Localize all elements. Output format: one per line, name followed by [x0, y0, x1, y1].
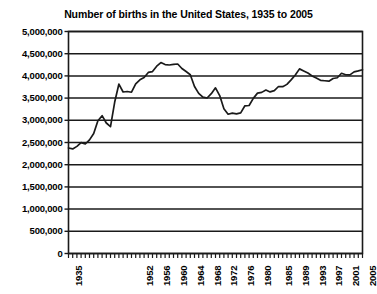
x-axis-tick-label: 1968: [212, 265, 223, 285]
y-axis-tick-label: 3,500,000: [22, 92, 62, 103]
chart-figure: Number of births in the United States, 1…: [0, 0, 377, 294]
x-axis-tick-label: 2005: [367, 265, 377, 285]
x-axis-tick-label: 2001: [350, 265, 361, 285]
x-axis-tick-label: 1935: [73, 265, 84, 285]
x-axis-tick-label: 1985: [283, 265, 294, 285]
y-axis-tick-label: 2,500,000: [22, 137, 62, 148]
y-axis-tick-label: 4,000,000: [22, 70, 62, 81]
y-axis-tick-label: 3,000,000: [22, 114, 62, 125]
y-axis-tick-label: 1,000,000: [22, 203, 62, 214]
y-axis-tick-label: 0: [57, 248, 62, 259]
x-axis-tick-label: 1956: [161, 265, 172, 285]
x-axis-tick-label: 1993: [317, 265, 328, 285]
x-axis-tick-label: 1972: [228, 265, 239, 285]
x-axis-tick-label: 1960: [178, 265, 189, 285]
x-axis-tick-label: 1976: [245, 265, 256, 285]
y-axis-tick-label: 5,000,000: [22, 26, 62, 37]
y-axis-tick-label: 500,000: [30, 225, 63, 236]
x-axis-tick-label: 1989: [300, 265, 311, 285]
x-axis-tick-label: 1952: [144, 265, 155, 285]
y-axis-tick-label: 1,500,000: [22, 181, 62, 192]
x-axis-tick-label: 1997: [333, 265, 344, 285]
y-axis-tick-label: 2,000,000: [22, 159, 62, 170]
x-axis-tick-label: 1980: [262, 265, 273, 285]
x-axis-tick-label: 1964: [195, 265, 206, 285]
y-axis-tick-label: 4,500,000: [22, 48, 62, 59]
